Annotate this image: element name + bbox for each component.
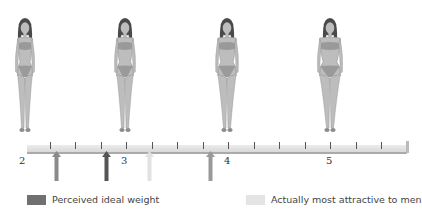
scale-tick	[228, 142, 229, 149]
scale-label-2: 2	[19, 155, 25, 166]
scale-tick	[381, 142, 382, 149]
body-size-scale-bar	[27, 145, 407, 154]
scale-tick	[330, 142, 331, 149]
figure-average	[207, 16, 247, 136]
up-arrow-icon	[206, 151, 215, 181]
scale-tick	[126, 142, 127, 149]
scale-tick	[279, 142, 280, 149]
scale-label-4: 4	[224, 155, 230, 166]
up-arrow-icon	[145, 151, 154, 181]
figure-thin	[5, 16, 45, 136]
scale-label-3: 3	[121, 155, 127, 166]
up-arrow-icon	[52, 151, 61, 181]
figure-heavy	[310, 16, 350, 136]
scale-tick	[254, 142, 255, 149]
scale-tick	[75, 142, 76, 149]
scale-label-5: 5	[326, 155, 332, 166]
scale-tick	[152, 142, 153, 149]
scale-tick	[356, 142, 357, 149]
legend-swatch-perceived-ideal	[27, 195, 46, 205]
up-arrow-icon	[102, 151, 111, 181]
legend-label-perceived-ideal: Perceived ideal weight	[52, 194, 159, 205]
scale-tick	[50, 142, 51, 149]
scale-tick	[305, 142, 306, 149]
scale-tick	[101, 142, 102, 149]
scale-tick	[177, 142, 178, 149]
figure-slim	[105, 16, 145, 136]
legend-label-most-attractive: Actually most attractive to men	[271, 194, 422, 205]
scale-tick	[203, 142, 204, 149]
legend-swatch-most-attractive	[246, 195, 265, 205]
scale-bar-end-cap	[406, 141, 409, 153]
